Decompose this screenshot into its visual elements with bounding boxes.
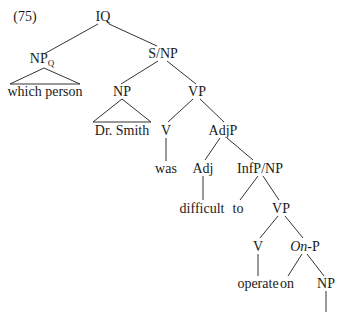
edge-vp-v (168, 99, 193, 122)
leaf-dr-smith: Dr. Smith (95, 124, 149, 138)
leaf-difficult: difficult (180, 202, 225, 216)
node-s-np: S/NP (148, 47, 178, 61)
leaf-on: on (280, 277, 294, 291)
leaf-operate: operate (237, 277, 278, 291)
edge-onp-on (288, 254, 302, 276)
leaf-was: was (155, 162, 177, 176)
edge-vp2-v2 (260, 216, 278, 238)
edge-infp-vp (263, 176, 279, 200)
node-np-q-label: NP (30, 51, 48, 66)
edge-vp-adjp (200, 99, 224, 122)
node-adjp: AdjP (209, 124, 238, 138)
edge-iq-npq (44, 24, 98, 54)
node-on-p-rest: -P (307, 239, 319, 254)
node-vp-inf: VP (272, 202, 290, 216)
node-on-p-italic: On (290, 239, 307, 254)
node-np-q-subscript: Q (48, 58, 55, 68)
edge-infp-to (240, 176, 258, 200)
edge-snp-vp (167, 61, 196, 84)
leaf-to: to (233, 202, 244, 216)
triangle-npq (10, 68, 80, 84)
node-np-object: NP (317, 277, 335, 291)
node-v-inf: V (253, 240, 263, 254)
node-v-main: V (161, 124, 171, 138)
node-iq: IQ (96, 10, 111, 24)
example-number: (75) (13, 10, 36, 24)
edge-adjp-adj (205, 138, 220, 160)
node-adj: Adj (193, 162, 214, 176)
syntax-tree-diagram: (75) IQ NPQ which person S/NP NP Dr. Smi… (0, 0, 345, 323)
edge-iq-snp (109, 24, 157, 46)
node-on-p: On-P (290, 240, 320, 254)
node-infp-np: InfP/NP (237, 162, 283, 176)
edge-adjp-infp (227, 138, 253, 160)
edge-onp-np (307, 254, 324, 276)
triangle-np-subj (93, 99, 151, 122)
edge-vp2-onp (285, 216, 303, 238)
edge-snp-np (121, 61, 158, 84)
node-vp-main: VP (188, 85, 206, 99)
node-np-subject: NP (113, 85, 131, 99)
node-np-q: NPQ (30, 52, 54, 70)
leaf-which-person: which person (7, 85, 82, 99)
